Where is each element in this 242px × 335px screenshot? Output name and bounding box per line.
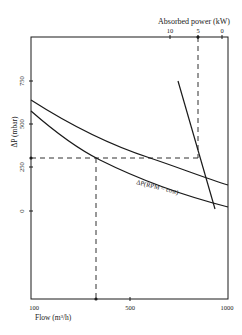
top-tick-10: 10	[167, 27, 174, 34]
x-tick-1000: 1000	[221, 304, 234, 311]
top-tick-5: 5	[196, 27, 199, 34]
y-tick-500: 500	[18, 119, 25, 129]
x-tick-500: 500	[125, 304, 135, 311]
lower-pressure-curve	[31, 111, 228, 207]
top-axis-label: Absorbed power (kW)	[158, 17, 230, 26]
x-axis-label: Flow (m³/h)	[35, 313, 72, 322]
top-tick-0: 0	[220, 27, 223, 34]
y-tick-250: 250	[18, 162, 25, 172]
y-tick-750: 750	[18, 76, 25, 86]
absorbed-power-line	[178, 81, 215, 209]
y-axis-label: ΔP (mbar)	[10, 116, 19, 147]
x-tick-100: 100	[29, 304, 39, 311]
pump-chart: Absorbed power (kW) 10 5 0 750 500 250 0…	[0, 0, 242, 335]
y-tick-0: 0	[18, 209, 25, 212]
curve-label: ΔP(RPM = cost)	[136, 178, 180, 196]
